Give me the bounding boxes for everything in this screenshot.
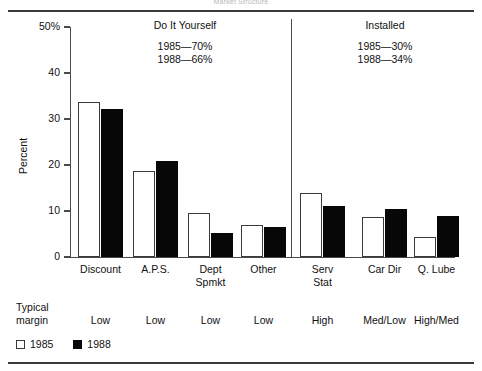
white-swatch-icon (16, 340, 25, 349)
bar-1988-car-dir (385, 209, 407, 257)
bar-1985-q--lube (414, 237, 436, 257)
typical-margin-label: Typical margin (16, 301, 49, 327)
bar-1985-other (241, 225, 263, 257)
bar-1988-serv-stat (323, 206, 345, 257)
black-swatch-icon (73, 340, 82, 349)
bar-1988-q--lube (437, 216, 459, 257)
bar-1988-a-p-s- (156, 161, 178, 257)
legend-label-1985: 1985 (30, 338, 53, 350)
legend-item-1988: 1988 (73, 338, 110, 350)
legend-item-1985: 1985 (16, 338, 53, 350)
legend-label-1988: 1988 (87, 338, 110, 350)
bar-1985-discount (78, 102, 100, 257)
bars-layer (0, 0, 482, 258)
bar-1988-other (264, 227, 286, 257)
typical-margin-value: High/Med (397, 314, 477, 326)
category-label: Q. Lube (397, 263, 477, 276)
bar-1985-a-p-s- (133, 171, 155, 257)
figure-panel: Market Structure Do It Yourself 1985—70%… (0, 0, 482, 371)
bottom-rule (8, 362, 474, 364)
legend: 1985 1988 (16, 338, 125, 350)
bar-1985-serv-stat (300, 193, 322, 257)
bar-1985-car-dir (362, 217, 384, 257)
bar-1988-discount (101, 109, 123, 257)
bar-1988-dept-spmkt (211, 233, 233, 257)
bar-1985-dept-spmkt (188, 213, 210, 257)
